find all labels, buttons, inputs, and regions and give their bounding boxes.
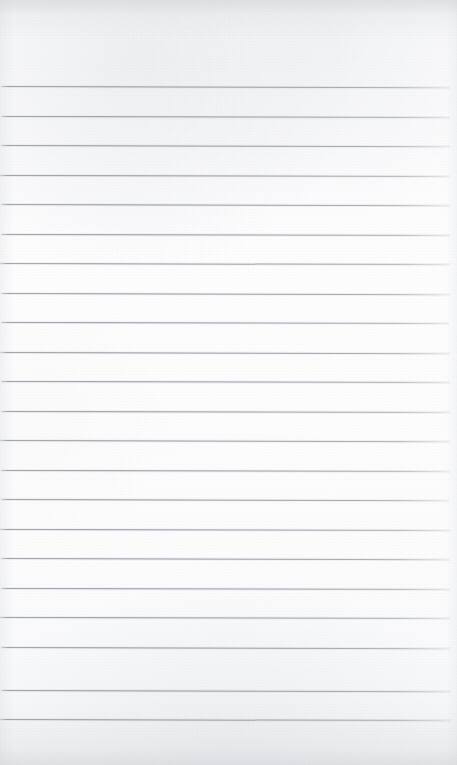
rule-line [1, 322, 449, 324]
rule-line [1, 588, 450, 590]
rule-line [1, 204, 450, 206]
rule-line [0, 719, 451, 721]
rule-line [1, 381, 450, 383]
rule-line [1, 499, 449, 501]
rule-line [0, 352, 450, 354]
ruled-line-group [0, 0, 457, 765]
rule-line [0, 617, 450, 619]
rule-line [1, 690, 451, 692]
rule-line [1, 411, 450, 413]
rule-line [0, 529, 450, 531]
rule-line [1, 293, 450, 295]
rule-line [0, 175, 450, 177]
rule-line [1, 145, 450, 147]
rule-line [1, 647, 450, 649]
rule-line [1, 116, 450, 118]
rule-line [0, 440, 450, 442]
paper-edge-vignette [0, 0, 457, 765]
rule-line [1, 86, 450, 88]
rule-line [1, 234, 450, 236]
rule-line [1, 470, 450, 472]
paper-background [0, 0, 457, 765]
rule-line [1, 558, 450, 560]
paper-grain-texture [0, 0, 457, 765]
rule-line [0, 263, 450, 265]
notebook-paper-sheet [0, 0, 457, 765]
